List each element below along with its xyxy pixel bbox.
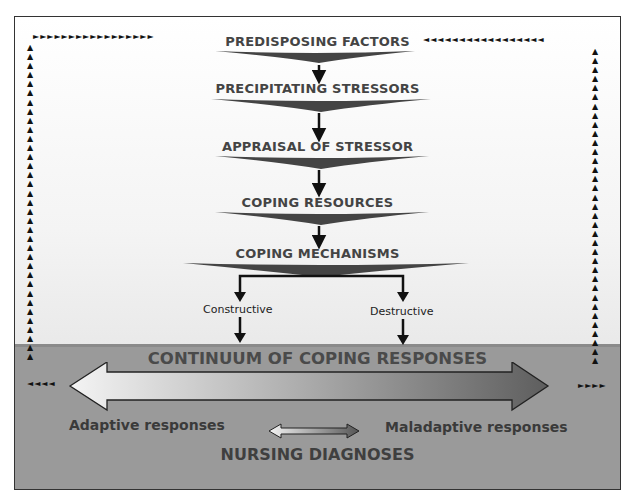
wedge-4	[215, 212, 429, 225]
feedback-top-left-arrows: ►►►►►►►►►►►►►►►►►	[33, 33, 155, 41]
diagram-frame: PREDISPOSING FACTORS PRECIPITATING STRES…	[14, 16, 621, 490]
wedge-1	[215, 51, 415, 63]
nursing-diagnoses-label: NURSING DIAGNOSES	[15, 445, 620, 464]
feedback-bottom-left-arrows: ◄◄◄◄	[27, 380, 56, 388]
wedge-3	[215, 156, 429, 169]
branch-constructive: Constructive	[203, 303, 273, 316]
adaptive-responses-label: Adaptive responses	[69, 417, 225, 433]
branch-destructive: Destructive	[370, 305, 433, 318]
flow-wedges-and-arrows	[15, 17, 621, 347]
feedback-right-vertical-arrows: ▲▲▲▲▲▲▲▲▲▲▲▲▲▲▲▲▲▲▲▲▲▲▲▲▲▲▲▲▲▲▲▲▲▲▲	[590, 47, 600, 365]
feedback-left-vertical-arrows: ▲▲▲▲▲▲▲▲▲▲▲▲▲▲▲▲▲▲▲▲▲▲▲▲▲▲▲▲▲▲▲▲▲▲▲	[25, 43, 35, 361]
maladaptive-responses-label: Maladaptive responses	[385, 419, 568, 435]
wedge-2	[211, 99, 431, 112]
feedback-bottom-right-arrows: ►►►►	[578, 382, 607, 390]
double-arrow-icon	[267, 422, 363, 440]
feedback-top-right-arrows: ◄◄◄◄◄◄◄◄◄◄◄◄◄◄◄◄◄	[423, 36, 545, 44]
